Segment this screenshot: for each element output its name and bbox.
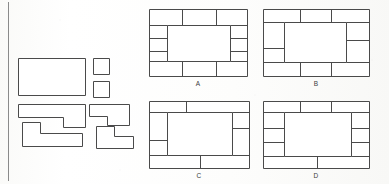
- option-d-inner-rectangle: [285, 113, 352, 157]
- option-c-label: C: [197, 172, 202, 179]
- stimulus-pieces: [19, 59, 134, 149]
- option-a-diagram[interactable]: A: [150, 10, 248, 88]
- piece-z-right-lower: [97, 127, 134, 149]
- option-a-label: A: [196, 80, 201, 87]
- piece-small-square-top: [94, 59, 110, 75]
- piece-z-right-upper: [90, 105, 130, 126]
- option-b-inner-rectangle: [285, 23, 347, 63]
- option-d-label: D: [314, 172, 319, 179]
- scan-page: A B: [0, 0, 389, 184]
- option-d-diagram[interactable]: D: [264, 102, 370, 180]
- option-c-diagram[interactable]: C: [150, 102, 250, 180]
- option-b-label: B: [314, 80, 319, 87]
- puzzle-figure: A B: [0, 0, 389, 184]
- piece-large-rectangle: [19, 59, 86, 96]
- option-c-inner-rectangle: [168, 113, 233, 156]
- piece-small-square-bottom: [94, 82, 110, 98]
- option-a-inner-rectangle: [168, 26, 231, 62]
- option-b-diagram[interactable]: B: [264, 10, 370, 88]
